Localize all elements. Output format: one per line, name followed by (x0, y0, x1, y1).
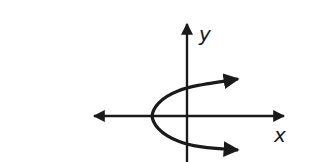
parabola-curve (152, 79, 238, 150)
coordinate-graph: y x (0, 0, 313, 162)
y-axis-label: y (198, 22, 212, 46)
x-axis-label: x (273, 123, 286, 147)
